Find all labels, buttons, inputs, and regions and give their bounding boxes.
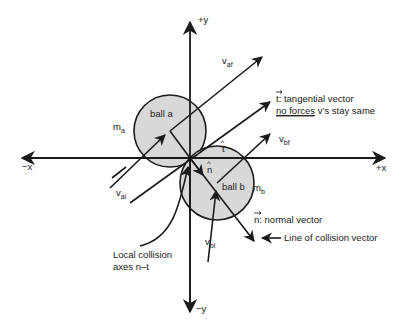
- tangential-note: no forces v’s stay same: [276, 105, 375, 116]
- collision-diagram: +y −y +x −x ball a ball b ma mb vaf vai …: [0, 0, 409, 330]
- mass-b-label: mb: [253, 182, 265, 195]
- vaf-label: vaf: [222, 55, 233, 68]
- vaf-arrow: [170, 57, 262, 131]
- local-axes-label-line1: Local collision: [113, 249, 172, 260]
- axis-label-neg-x: −x: [22, 161, 33, 172]
- n-hat-caret: ^: [207, 159, 211, 168]
- normal-label: n: normal vector: [254, 214, 322, 225]
- vbf-label: vbf: [279, 133, 290, 146]
- tangential-annotation: t: tangential vector no forces v’s stay …: [276, 91, 375, 117]
- tangential-label: t: tangential vector: [276, 93, 354, 104]
- vai-label: vai: [116, 187, 127, 200]
- mass-a-label: ma: [113, 121, 125, 134]
- local-axes-label-line2: axes n–t: [113, 261, 149, 272]
- axis-label-neg-y: −y: [196, 303, 207, 314]
- ball-a-label: ball a: [150, 108, 173, 119]
- axis-label-pos-y: +y: [198, 14, 209, 25]
- t-hat-caret: ^: [221, 138, 225, 147]
- normal-annotation: n: normal vector: [254, 212, 322, 226]
- line-of-collision-label: Line of collision vector: [284, 232, 377, 243]
- vai-leader: [112, 167, 126, 178]
- ball-b-label: ball b: [222, 181, 245, 192]
- axis-label-pos-x: +x: [376, 162, 387, 173]
